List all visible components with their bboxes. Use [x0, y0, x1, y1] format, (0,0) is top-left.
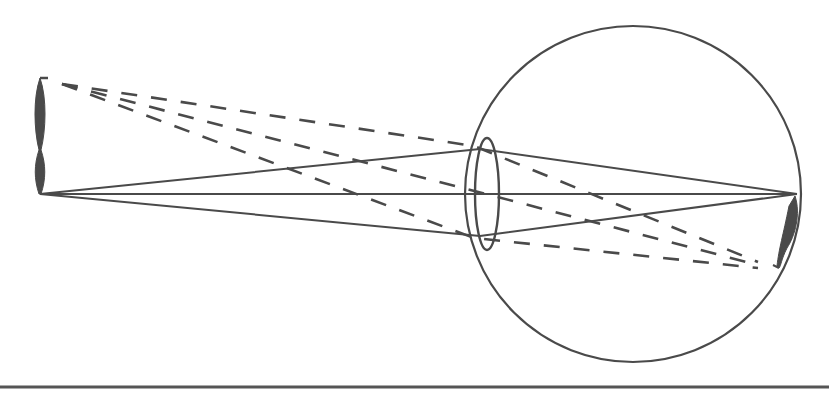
image-shape [777, 196, 797, 268]
solid-light-rays [40, 149, 797, 236]
dashed-ray-3 [62, 84, 758, 268]
retinal-image-inverted [773, 196, 797, 268]
solid-ray-3 [40, 194, 797, 236]
solid-ray-1 [40, 149, 797, 194]
object-upright [35, 78, 48, 194]
object-shape [35, 78, 45, 194]
eye-optics-diagram [0, 0, 829, 393]
dashed-light-rays [62, 84, 758, 268]
